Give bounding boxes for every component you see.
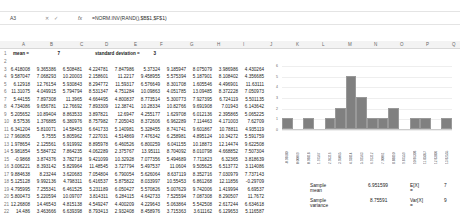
cell[interactable]: 8.010798 bbox=[184, 149, 212, 154]
cell[interactable]: 7.864235 bbox=[54, 149, 82, 154]
cell[interactable]: 5.570826 bbox=[132, 187, 160, 192]
cell[interactable]: 3.715363 bbox=[158, 209, 186, 214]
cell[interactable]: 7.087308 bbox=[184, 194, 212, 199]
cell[interactable]: 5.794794 bbox=[54, 89, 82, 94]
cell[interactable]: 7.927395 bbox=[184, 97, 212, 102]
cell[interactable]: 5.187901 bbox=[184, 74, 212, 79]
cell[interactable]: 3.782718 bbox=[54, 157, 82, 162]
cell[interactable]: 3.114086 bbox=[236, 164, 264, 169]
cell[interactable]: 5.300773 bbox=[158, 97, 186, 102]
cell[interactable]: 9.884638 bbox=[2, 172, 30, 177]
cell[interactable]: 5.7555 bbox=[28, 134, 56, 139]
column-header-b[interactable]: B bbox=[50, 42, 53, 47]
cell[interactable]: 5.626064 bbox=[132, 172, 160, 177]
cell[interactable]: 8.393142 bbox=[28, 164, 56, 169]
cell[interactable]: 10.18873 bbox=[184, 142, 212, 147]
cell[interactable]: 8.294772 bbox=[80, 82, 108, 87]
cell[interactable]: 4.051785 bbox=[158, 89, 186, 94]
cell[interactable]: 8.23244 bbox=[28, 172, 56, 177]
cell[interactable]: 9.691908 bbox=[184, 104, 212, 109]
cell[interactable]: 5.220594 bbox=[28, 194, 56, 199]
cell[interactable]: 7.711823 bbox=[184, 157, 212, 162]
cell[interactable]: 3.986986 bbox=[210, 67, 238, 72]
cell[interactable]: 2.395865 bbox=[210, 112, 238, 117]
cell[interactable]: 4.935119 bbox=[236, 127, 264, 132]
cell[interactable]: 4.049915 bbox=[28, 89, 56, 94]
sample-variance-value[interactable]: 8.75591 bbox=[370, 198, 387, 203]
cell[interactable]: 10.89404 bbox=[28, 112, 56, 117]
cell[interactable]: -0.29709 bbox=[236, 179, 264, 184]
cell[interactable]: 9.587047 bbox=[2, 74, 30, 79]
cell[interactable]: 2.932408 bbox=[106, 209, 134, 214]
cell[interactable]: 9.505625 bbox=[184, 164, 212, 169]
cell[interactable]: 10.82766 bbox=[158, 104, 186, 109]
cell[interactable]: 3.463666 bbox=[28, 209, 56, 214]
cell[interactable]: 4.751284 bbox=[106, 89, 134, 94]
cell[interactable]: 5.800473 bbox=[2, 194, 30, 199]
cell[interactable]: 6.418008 bbox=[2, 67, 30, 72]
cell[interactable]: 1.605546 bbox=[184, 82, 212, 87]
cell[interactable]: 4.668852 bbox=[210, 149, 238, 154]
cell[interactable]: 10.32928 bbox=[106, 157, 134, 162]
cell[interactable]: 5.501135 bbox=[236, 97, 264, 102]
cell[interactable]: 14.58453 bbox=[54, 127, 82, 132]
cell[interactable]: 1.376885 bbox=[28, 119, 56, 124]
cell[interactable]: 7.847986 bbox=[106, 67, 134, 72]
column-header-e[interactable]: E bbox=[134, 42, 137, 47]
histogram-bar[interactable] bbox=[325, 118, 336, 129]
cell[interactable]: 5.584732 bbox=[28, 149, 56, 154]
cell[interactable]: 7.054804 bbox=[80, 172, 108, 177]
cell[interactable]: 6.143642 bbox=[236, 104, 264, 109]
cell[interactable]: 8.372228 bbox=[210, 89, 238, 94]
cell[interactable]: 6.460526 bbox=[106, 142, 134, 147]
fx-icon[interactable]: fx bbox=[78, 15, 92, 21]
cell[interactable]: 5.063864 bbox=[158, 202, 186, 207]
cell[interactable]: 5.981854 bbox=[2, 149, 30, 154]
cell[interactable]: 12.6947 bbox=[106, 112, 134, 117]
cell[interactable]: 7.077356 bbox=[132, 157, 160, 162]
cell[interactable]: 1.419994 bbox=[210, 187, 238, 192]
cell[interactable]: 7.62709 bbox=[236, 119, 264, 124]
cell[interactable]: -0.9868 bbox=[2, 157, 30, 162]
cell[interactable]: 8.773514 bbox=[132, 97, 160, 102]
cell[interactable]: 8.741741 bbox=[158, 127, 186, 132]
histogram-bar[interactable] bbox=[367, 118, 378, 129]
cell[interactable]: 4.734086 bbox=[2, 104, 30, 109]
cell[interactable]: 9.622508 bbox=[236, 142, 264, 147]
cell[interactable]: 7.893309 bbox=[80, 104, 108, 109]
cell[interactable]: 4.224781 bbox=[80, 67, 108, 72]
cell[interactable]: 7.01943 bbox=[210, 104, 238, 109]
cell[interactable]: 11.48545 bbox=[80, 164, 108, 169]
cell[interactable]: 8.301708 bbox=[158, 82, 186, 87]
cell[interactable]: 5.591759 bbox=[236, 134, 264, 139]
cell[interactable]: 1.629708 bbox=[158, 112, 186, 117]
cell[interactable]: 9.992136 bbox=[28, 179, 56, 184]
cell[interactable]: 8.704092 bbox=[158, 149, 186, 154]
cell[interactable]: 6.861268 bbox=[184, 179, 212, 184]
cell[interactable]: 3.814311 bbox=[80, 194, 108, 199]
cell[interactable]: 6.258981 bbox=[158, 134, 186, 139]
cell[interactable]: 12.14474 bbox=[210, 142, 238, 147]
column-header-g[interactable]: G bbox=[190, 42, 194, 47]
cell[interactable]: 5.575394 bbox=[158, 74, 186, 79]
cell[interactable]: 6.012136 bbox=[184, 112, 212, 117]
cell[interactable]: 6.12918 bbox=[2, 82, 30, 87]
name-box[interactable]: A3 bbox=[0, 15, 40, 21]
cell[interactable]: 11.59317 bbox=[106, 82, 134, 87]
cell[interactable]: 11.0604 bbox=[158, 164, 186, 169]
cell[interactable]: 14.486 bbox=[2, 209, 30, 214]
column-header-d[interactable]: D bbox=[105, 42, 108, 47]
column-header-k[interactable]: K bbox=[296, 42, 299, 47]
column-header-o[interactable]: O bbox=[400, 42, 404, 47]
cell[interactable]: 6.724119 bbox=[210, 97, 238, 102]
cell[interactable]: 1.978654 bbox=[2, 142, 30, 147]
column-header-q[interactable]: Q bbox=[452, 42, 456, 47]
cell[interactable]: 6.416537 bbox=[80, 179, 108, 184]
cell[interactable]: 11.63111 bbox=[236, 82, 264, 87]
cell[interactable]: 5.875822 bbox=[106, 179, 134, 184]
cell[interactable]: 13.95111 bbox=[132, 149, 160, 154]
cell[interactable]: 10.78811 bbox=[210, 127, 238, 132]
cell[interactable]: 5.065225 bbox=[236, 112, 264, 117]
histogram-bar[interactable] bbox=[303, 118, 314, 129]
histogram-bar[interactable] bbox=[388, 108, 399, 129]
